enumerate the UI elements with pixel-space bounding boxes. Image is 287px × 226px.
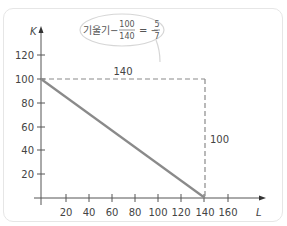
chart-svg: K L 20 40 60 80 100 120 20 40 60 80 100 … xyxy=(0,0,287,226)
x-tick-label: 80 xyxy=(129,207,142,218)
slope-result-numerator: 5 xyxy=(154,20,159,29)
x-tick-label: 20 xyxy=(60,207,73,218)
y-axis-label: K xyxy=(30,26,38,37)
x-axis-arrow-icon xyxy=(259,196,266,201)
y-tick-label: 100 xyxy=(15,74,34,85)
slope-denominator: 140 xyxy=(119,32,134,41)
slope-result-denominator: 7 xyxy=(154,32,159,41)
rise-label: 100 xyxy=(210,134,229,145)
slope-prefix: 기울기− xyxy=(83,25,118,36)
y-tick-label: 60 xyxy=(21,122,34,133)
x-tick-label: 60 xyxy=(106,207,119,218)
y-tick-label: 40 xyxy=(21,145,34,156)
budget-line xyxy=(41,79,205,198)
y-tick-label: 120 xyxy=(15,50,34,61)
x-axis-label: L xyxy=(256,207,262,218)
slope-callout: 기울기− 100 140 = − 5 7 xyxy=(80,14,164,62)
y-ticks: 20 40 60 80 100 120 xyxy=(15,50,45,180)
y-tick-label: 80 xyxy=(21,98,34,109)
x-tick-label: 120 xyxy=(171,207,190,218)
x-tick-label: 160 xyxy=(218,207,237,218)
y-axis-arrow-icon xyxy=(39,26,44,33)
x-tick-label: 40 xyxy=(83,207,96,218)
x-tick-label: 140 xyxy=(195,207,214,218)
x-tick-label: 100 xyxy=(148,207,167,218)
y-tick-label: 20 xyxy=(21,169,34,180)
run-label: 140 xyxy=(113,66,132,77)
slope-numerator: 100 xyxy=(119,20,134,29)
